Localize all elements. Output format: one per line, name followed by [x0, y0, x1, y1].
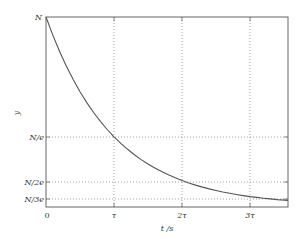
- x-tick-tau: τ: [112, 211, 117, 220]
- y-tick-n-over-3e: N/3e: [23, 195, 44, 204]
- y-tick-n: N: [34, 13, 43, 22]
- x-tick-3tau: 3τ: [245, 211, 255, 220]
- y-gridlines: [46, 137, 288, 199]
- y-tick-n-over-e: N/e: [29, 133, 45, 142]
- x-tick-2tau: 2τ: [176, 211, 187, 220]
- y-axis-label: y: [12, 110, 21, 116]
- x-tick-0: 0: [44, 211, 49, 220]
- y-tick-n-over-2e: N/2e: [23, 178, 44, 187]
- plot-frame: [46, 17, 288, 207]
- decay-curve: [46, 17, 288, 200]
- exponential-decay-chart: N N/e N/2e N/3e 0 τ 2τ 3τ t /s y: [0, 0, 304, 239]
- x-axis-label: t /s: [161, 224, 174, 233]
- tick-marks: [46, 17, 288, 207]
- x-gridlines: [114, 17, 250, 207]
